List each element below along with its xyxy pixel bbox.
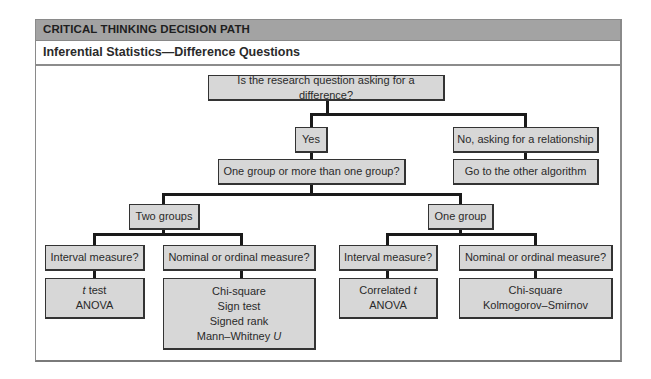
test-item: t test [83,283,107,298]
root-question-node: Is the research question asking for a di… [208,75,445,101]
two-groups-node: Two groups [129,204,200,230]
connector-line [310,113,527,116]
two-groups-nominal-tests: Chi-square Sign test Signed rank Mann–Wh… [163,278,316,350]
connector-line [386,233,389,245]
one-group-interval-tests: Correlated t ANOVA [339,278,438,319]
node-label: Is the research question asking for a di… [209,73,443,103]
node-label: No, asking for a relationship [457,132,593,147]
connector-line [524,152,527,159]
yes-node: Yes [295,127,328,153]
node-label: Yes [302,132,320,147]
no-relationship-node: No, asking for a relationship [453,127,599,153]
one-group-node: One group [428,204,494,230]
test-item: Kolmogorov–Smirnov [483,298,588,313]
node-label: Go to the other algorithm [465,164,587,179]
test-item: ANOVA [76,298,114,313]
connector-line [240,233,243,245]
connector-line [310,113,313,127]
connector-line [310,152,313,159]
connector-line [534,270,537,278]
test-item: Signed rank [210,314,269,329]
connector-line [386,270,389,278]
connector-line [524,113,527,127]
two-groups-nominal-node: Nominal or ordinal measure? [163,245,316,271]
test-item: Mann–Whitney U [197,329,281,344]
connector-line [162,193,462,196]
node-label: Interval measure? [344,250,432,265]
one-group-interval-node: Interval measure? [339,245,438,271]
connector-line [386,233,537,236]
subtitle-bar: Inferential Statistics—Difference Questi… [36,41,620,66]
node-label: Nominal or ordinal measure? [465,250,606,265]
connector-line [93,233,96,245]
node-label: Nominal or ordinal measure? [168,250,309,265]
group-question-node: One group or more than one group? [218,159,406,185]
test-item: ANOVA [369,298,407,313]
node-label: One group [435,209,487,224]
test-item: Chi-square [509,283,563,298]
header-bar: CRITICAL THINKING DECISION PATH [36,20,620,41]
connector-line [93,233,243,236]
two-groups-interval-tests: t test ANOVA [45,278,145,319]
node-label: Interval measure? [50,250,138,265]
node-label: One group or more than one group? [223,164,399,179]
two-groups-interval-node: Interval measure? [45,245,145,271]
connector-line [534,233,537,245]
subtitle-text: Inferential Statistics—Difference Questi… [43,45,300,59]
other-algorithm-node: Go to the other algorithm [453,159,599,185]
test-item: Sign test [218,299,261,314]
header-title: CRITICAL THINKING DECISION PATH [43,23,250,35]
one-group-nominal-node: Nominal or ordinal measure? [459,245,613,271]
test-item: Correlated t [359,283,416,298]
one-group-nominal-tests: Chi-square Kolmogorov–Smirnov [459,278,613,319]
connector-line [93,270,96,278]
node-label: Two groups [136,209,193,224]
test-item: Chi-square [212,284,266,299]
connector-line [240,270,243,278]
